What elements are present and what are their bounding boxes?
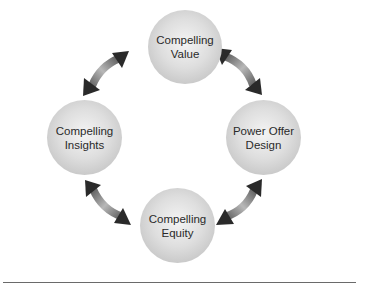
node-power-offer-design: Power Offer Design bbox=[226, 100, 301, 175]
node-label: Power Offer bbox=[233, 124, 294, 138]
node-compelling-insights: Compelling Insights bbox=[47, 100, 122, 175]
node-label: Equity bbox=[162, 226, 194, 240]
node-compelling-equity: Compelling Equity bbox=[140, 188, 215, 263]
horizontal-divider bbox=[3, 282, 356, 283]
node-label: Value bbox=[171, 47, 200, 61]
double-arrow-icon bbox=[215, 48, 262, 95]
node-label: Insights bbox=[65, 138, 105, 152]
node-label: Compelling bbox=[56, 124, 114, 138]
double-arrow-icon bbox=[216, 179, 262, 225]
double-arrow-icon bbox=[83, 51, 129, 96]
double-arrow-icon bbox=[85, 180, 131, 225]
node-label: Design bbox=[246, 138, 282, 152]
node-compelling-value: Compelling Value bbox=[148, 10, 222, 84]
node-label: Compelling bbox=[149, 212, 207, 226]
node-label: Compelling bbox=[156, 33, 214, 47]
cycle-diagram: Compelling Value Power Offer Design Comp… bbox=[0, 0, 367, 299]
